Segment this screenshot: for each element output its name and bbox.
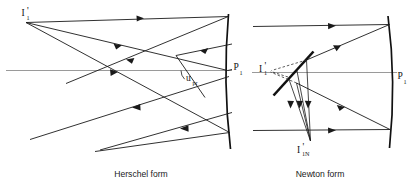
newton-panel: I ' 1 P 1 I ' 1N Newton form <box>252 16 407 179</box>
newton-arrow-fold-1 <box>287 101 294 109</box>
herschel-ray-b <box>26 23 228 71</box>
herschel-vertex-label: P <box>234 62 239 72</box>
figure-container: I ' 1 P 1 u pr Herschel form <box>0 0 413 195</box>
newton-arrow-conv-lower <box>337 105 345 111</box>
newton-image-subscript: 1 <box>264 69 267 76</box>
newton-fold-ray-3 <box>289 78 311 141</box>
herschel-panel: I ' 1 P 1 u pr Herschel form <box>6 6 243 180</box>
herschel-angle-label: u <box>186 73 191 83</box>
optics-diagram: I ' 1 P 1 u pr Herschel form <box>0 0 413 195</box>
herschel-image-subscript: 1 <box>27 14 30 21</box>
newton-focus-subscript: 1N <box>302 150 310 157</box>
herschel-ray-c <box>26 23 230 133</box>
newton-image-label: I <box>259 64 262 74</box>
herschel-ray-a <box>26 17 228 23</box>
herschel-arrow-li <box>132 104 141 111</box>
newton-incoming-upper <box>253 25 390 27</box>
herschel-ray-lower-out <box>100 113 232 151</box>
herschel-angle-subscript: pr <box>193 79 198 86</box>
newton-caption: Newton form <box>296 169 345 179</box>
newton-vertex-subscript: 1 <box>404 78 407 85</box>
newton-converge-upper <box>307 25 390 61</box>
newton-converge-lower <box>297 83 391 130</box>
herschel-arrow-a <box>137 15 145 21</box>
herschel-arrow-r1 <box>126 58 134 64</box>
herschel-caption: Herschel form <box>114 169 167 179</box>
herschel-angle-arc <box>181 71 185 80</box>
herschel-ray-lower-in <box>30 77 229 140</box>
newton-vertex-label: P <box>398 71 403 81</box>
newton-arrow-lower-in <box>328 127 336 133</box>
newton-focus-label: I <box>297 145 300 155</box>
newton-incoming-lower <box>253 130 390 131</box>
herschel-vertex-subscript: 1 <box>240 69 243 76</box>
newton-concave-mirror <box>388 16 393 148</box>
newton-arrow-upper-in <box>328 23 336 29</box>
herschel-ray-bottom <box>95 133 230 152</box>
newton-arrow-fold-3 <box>305 101 312 109</box>
herschel-image-label: I <box>22 8 25 18</box>
herschel-arrow-ur <box>200 48 208 54</box>
herschel-concave-mirror <box>226 14 231 149</box>
herschel-arrow-b <box>114 44 122 50</box>
